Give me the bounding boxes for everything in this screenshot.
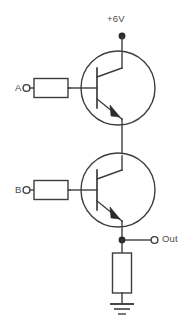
circuit-diagram: +6V A B Out bbox=[0, 0, 189, 327]
base-resistor-b bbox=[34, 181, 68, 200]
input-b-terminal[interactable] bbox=[23, 187, 30, 194]
output-terminal[interactable] bbox=[151, 237, 158, 244]
output-label: Out bbox=[162, 234, 178, 244]
schematic-svg bbox=[0, 0, 189, 327]
ground-icon bbox=[110, 304, 134, 314]
input-b-label: B bbox=[15, 185, 22, 195]
emitter-resistor bbox=[113, 253, 132, 293]
input-a-label: A bbox=[15, 83, 22, 93]
input-a-terminal[interactable] bbox=[23, 85, 30, 92]
supply-voltage-label: +6V bbox=[107, 14, 125, 24]
base-resistor-a bbox=[34, 79, 68, 98]
